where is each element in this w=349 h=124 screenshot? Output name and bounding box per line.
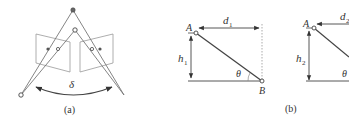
point-a1: [194, 31, 198, 35]
right-image-plane: [80, 34, 113, 72]
svg-text:1: 1: [229, 21, 233, 29]
caption-a: (a): [64, 104, 75, 116]
svg-text:1: 1: [184, 59, 188, 67]
world-point-top: [71, 8, 75, 12]
svg-text:A: A: [302, 18, 310, 29]
svg-text:2: 2: [302, 59, 306, 67]
panel-b-right: A d 2 h 2 θ (b): [285, 10, 349, 115]
panel-b-left: A d 1 h 1 θ B: [178, 14, 265, 96]
left-camera-center: [19, 93, 23, 97]
svg-text:θ: θ: [236, 68, 241, 79]
svg-text:B: B: [259, 85, 265, 96]
point-a2: [312, 26, 316, 30]
angle-label: δ: [69, 78, 75, 90]
svg-text:θ: θ: [342, 68, 347, 79]
svg-text:A: A: [185, 22, 193, 33]
world-point-mid: [73, 28, 77, 32]
left-image-plane: [36, 34, 70, 72]
diagram-canvas: δ (a) A d 1 h 1 θ B A d 2: [0, 0, 349, 124]
caption-b: (b): [285, 103, 297, 115]
panel-a: δ (a): [19, 8, 124, 116]
point-b: [260, 79, 264, 83]
